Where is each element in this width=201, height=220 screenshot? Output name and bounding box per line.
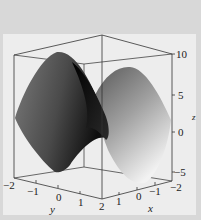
z-tick-neg5: −5 <box>174 167 186 178</box>
y-tick-2: 2 <box>99 201 105 212</box>
z-ticks <box>172 54 175 172</box>
x-axis-title: x <box>148 203 153 214</box>
x-tick-0: 0 <box>136 191 142 202</box>
z-tick-10: 10 <box>176 49 187 60</box>
x-tick-1: 1 <box>116 196 122 207</box>
z-axis-title: z <box>192 113 196 122</box>
y-tick-0: 0 <box>56 192 62 203</box>
x-tick-neg1: −1 <box>149 186 161 197</box>
y-tick-1: 1 <box>78 197 84 208</box>
z-tick-5: 5 <box>178 90 184 101</box>
y-tick-neg1: −1 <box>27 186 39 197</box>
z-tick-0: 0 <box>178 127 184 138</box>
y-tick-neg2: −2 <box>3 180 15 191</box>
y-axis-title: y <box>50 204 55 215</box>
x-tick-neg2: −2 <box>170 182 182 193</box>
